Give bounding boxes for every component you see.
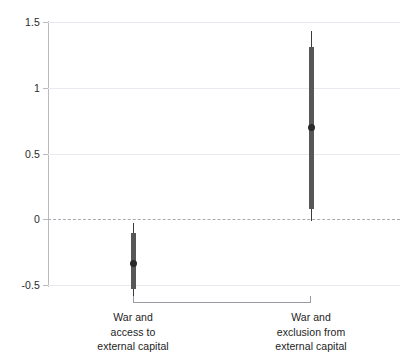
y-tick-label-0: 0 bbox=[2, 214, 40, 224]
category-label-line-1: War and bbox=[236, 310, 386, 325]
y-tick-label-0.5: 0.5 bbox=[2, 149, 40, 159]
category-label-line-2: access to bbox=[58, 325, 208, 340]
point-estimate-marker bbox=[130, 260, 137, 267]
gridline--0.5 bbox=[48, 285, 400, 286]
coefficient-plot-figure: 1.5 1 0.5 0 -0.5 War and access to exter… bbox=[0, 0, 416, 362]
gridline-1.5 bbox=[48, 22, 400, 23]
category-label-line-3: external capital bbox=[236, 339, 386, 354]
y-tick-label-1: 1 bbox=[2, 83, 40, 93]
category-label-line-1: War and bbox=[58, 310, 208, 325]
category-bracket bbox=[133, 296, 311, 303]
category-label-war-and-access-to-external-capital: War and access to external capital bbox=[58, 310, 208, 354]
category-label-war-and-exclusion-from-external-capital: War and exclusion from external capital bbox=[236, 310, 386, 354]
zero-reference-line bbox=[48, 219, 400, 220]
gridline-1 bbox=[48, 88, 400, 89]
gridline-0.5 bbox=[48, 154, 400, 155]
y-axis-tick-labels: 1.5 1 0.5 0 -0.5 bbox=[0, 0, 40, 362]
category-label-line-3: external capital bbox=[58, 339, 208, 354]
y-tick-label--0.5: -0.5 bbox=[2, 280, 40, 290]
category-label-line-2: exclusion from bbox=[236, 325, 386, 340]
plot-area bbox=[48, 22, 400, 286]
point-estimate-marker bbox=[308, 124, 315, 131]
y-tick-label-1.5: 1.5 bbox=[2, 17, 40, 27]
